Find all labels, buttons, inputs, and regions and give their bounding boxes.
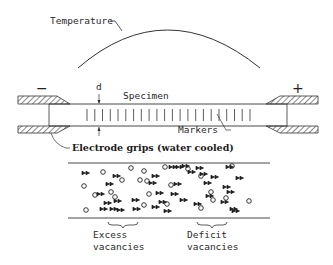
vacancy-circle bbox=[142, 169, 147, 174]
atom-flux-arrow bbox=[106, 182, 114, 186]
atom-flux-arrow bbox=[117, 208, 125, 212]
markers-label: Markers bbox=[178, 124, 218, 135]
vacancy-circle bbox=[109, 190, 114, 195]
atom-flux-arrow bbox=[211, 175, 219, 179]
vacancy-circle bbox=[224, 196, 229, 201]
atom-flux-arrow bbox=[180, 198, 188, 202]
left-electrode-grip bbox=[18, 96, 70, 133]
vacancy-circle bbox=[101, 170, 106, 175]
atom-flux-arrow bbox=[164, 209, 172, 213]
atom-flux-arrow bbox=[227, 190, 235, 194]
atom-flux-arrow bbox=[100, 207, 108, 211]
vacancy-circle bbox=[129, 166, 134, 171]
vacancy-circle bbox=[199, 206, 204, 211]
vacancy-circle bbox=[82, 184, 87, 189]
atom-flux-arrow bbox=[132, 198, 140, 202]
deficit-label-line1: Deficit bbox=[187, 229, 227, 240]
specimen-label: Specimen bbox=[123, 90, 169, 101]
atom-flux-arrow bbox=[221, 200, 229, 204]
d-label: d bbox=[96, 81, 102, 92]
deficit-brace bbox=[197, 222, 227, 228]
atom-flux-arrow bbox=[97, 192, 105, 196]
atom-flux-arrow bbox=[204, 181, 212, 185]
atom-flux-arrow bbox=[152, 205, 160, 209]
plus-sign: + bbox=[292, 80, 304, 96]
temperature-curve bbox=[78, 30, 260, 68]
vacancy-circle bbox=[211, 198, 216, 203]
atom-flux-arrow bbox=[82, 171, 90, 175]
electrode-grips-label: Electrode grips (water cooled) bbox=[72, 142, 234, 153]
specimen bbox=[49, 104, 287, 126]
vacancy-circle bbox=[147, 192, 152, 197]
vacancy-circle bbox=[138, 178, 143, 183]
temperature-label: Temperature bbox=[50, 15, 113, 26]
atom-flux-arrow bbox=[113, 174, 121, 178]
atom-flux-arrow bbox=[104, 201, 112, 205]
atom-flux-arrow bbox=[133, 207, 141, 211]
atom-flux-arrow bbox=[174, 182, 182, 186]
vacancy-circle bbox=[142, 203, 147, 208]
atom-flux-arrow bbox=[232, 209, 240, 213]
vacancy-circle bbox=[209, 190, 214, 195]
atom-flux-arrow bbox=[171, 192, 179, 196]
electrode-grips-leader bbox=[51, 133, 70, 148]
marker-lines bbox=[87, 109, 250, 121]
atom-flux-arrow bbox=[196, 166, 204, 170]
atom-flux-arrow bbox=[223, 185, 231, 189]
atom-flux-arrow bbox=[149, 181, 157, 185]
atom-flux-arrow bbox=[152, 174, 160, 178]
vacancy-circle bbox=[247, 199, 252, 204]
vacancy-circle bbox=[169, 183, 174, 188]
atom-flux-arrow bbox=[236, 176, 244, 180]
vacancy-circle bbox=[163, 165, 168, 170]
minus-sign: − bbox=[36, 80, 48, 96]
particles bbox=[82, 164, 252, 213]
excess-brace bbox=[108, 222, 138, 228]
excess-label-line2: vacancies bbox=[93, 241, 144, 252]
excess-label-line1: Excess bbox=[93, 229, 127, 240]
deficit-label-line2: vacancies bbox=[187, 241, 238, 252]
right-electrode-grip bbox=[266, 96, 318, 133]
atom-flux-arrow bbox=[156, 191, 164, 195]
vacancy-circle bbox=[120, 178, 125, 183]
vacancy-circle bbox=[84, 208, 89, 213]
d-dimension-arrows bbox=[98, 94, 101, 136]
vacancy-circle bbox=[113, 195, 118, 200]
electromigration-diagram: Temperature − + Specimen d Markers Elect… bbox=[0, 0, 333, 265]
